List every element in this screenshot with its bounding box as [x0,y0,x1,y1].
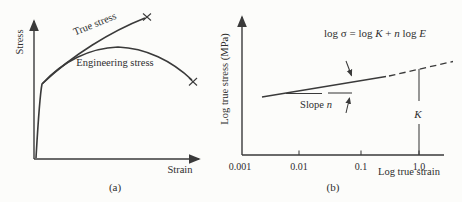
true-stress-end-marker [143,14,151,21]
panel-a: Stress Strain True stress Engineering st… [14,10,199,194]
panel-b-x-axis-label: Log true strain [378,166,441,177]
panel-a-y-axis-label: Stress [14,29,25,54]
log-log-fit-line-extrapolation [389,62,453,77]
power-law-equation: log σ = log K + n log E [324,27,426,39]
panel-a-x-axis-label: Strain [167,164,193,175]
engineering-stress-curve-label: Engineering stress [76,57,153,68]
fit-line-pointer-arrow [346,61,352,76]
slope-reference-line [286,93,352,94]
tick-0001: 0.001 [229,161,252,172]
panel-b-caption: (b) [327,181,340,194]
panel-b: log σ = log K + n log E Slope n K 0.001 … [219,17,453,194]
tick-01: 0.1 [355,161,368,172]
figure-canvas: Stress Strain True stress Engineering st… [0,0,462,202]
panel-b-y-axis-label: Log true stress (MPa) [219,33,231,125]
k-label: K [413,108,422,120]
panel-a-caption: (a) [109,181,122,194]
log-log-fit-line [262,77,386,98]
stress-strain-figure: Stress Strain True stress Engineering st… [0,0,462,202]
slope-pointer-arrow [346,98,350,113]
elastic-rise-segment [36,84,42,158]
slope-n-label: Slope n [300,99,332,110]
tick-001: 0.01 [290,161,308,172]
engineering-stress-end-marker [189,78,197,86]
